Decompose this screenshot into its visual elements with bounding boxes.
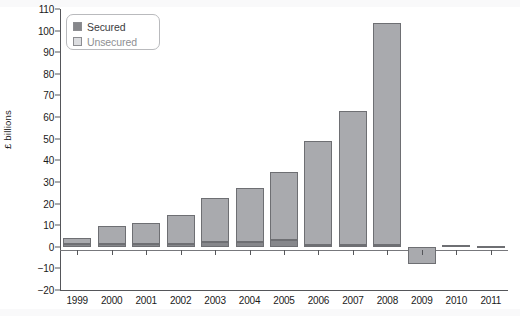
x-tick-label: 2001 [135,295,156,306]
y-tick-label: 80 [14,68,54,79]
bar-group [201,0,229,316]
x-tick-label: 2006 [308,295,329,306]
bar-segment-unsecured [442,245,470,247]
y-tick-label: 10 [14,220,54,231]
bar-group [442,0,470,316]
legend-swatch-secured [73,22,82,31]
bar-segment-secured [63,244,91,247]
x-tick-mark [387,250,388,255]
y-tick-label: 50 [14,133,54,144]
bar-segment-secured [373,245,401,247]
x-tick-mark [422,250,423,255]
y-tick-label: 0 [14,241,54,252]
y-tick-label: 20 [14,198,54,209]
x-tick-mark [284,250,285,255]
bar-segment-secured [167,244,195,247]
bar-segment-secured [339,245,367,247]
x-tick-mark [146,250,147,255]
x-tick-mark [112,250,113,255]
y-tick-label: 40 [14,155,54,166]
x-tick-label: 2000 [101,295,122,306]
x-tick-mark [181,250,182,255]
legend-label-unsecured: Unsecured [87,36,137,48]
x-tick-mark [491,250,492,255]
y-tick-label: −20 [14,285,54,296]
bar-group [408,0,436,316]
x-tick-mark [250,250,251,255]
x-tick-mark [318,250,319,255]
bar-segment-secured [270,240,298,246]
x-tick-mark [353,250,354,255]
y-tick-label: 30 [14,176,54,187]
x-tick-label: 2007 [342,295,363,306]
bar-segment-secured [132,244,160,247]
x-tick-label: 2003 [204,295,225,306]
bar-group [477,0,505,316]
x-tick-label: 2005 [273,295,294,306]
bar-segment-unsecured [270,172,298,240]
bar-segment-secured [98,244,126,247]
x-tick-mark [456,250,457,255]
bar-segment-unsecured [201,198,229,242]
bar-group [304,0,332,316]
bar-group [373,0,401,316]
x-tick-label: 2008 [377,295,398,306]
legend-item-secured: Secured [73,19,153,34]
y-tick-label: 90 [14,47,54,58]
y-tick-label: 100 [14,25,54,36]
y-tick-label: −10 [14,263,54,274]
x-tick-label: 2002 [170,295,191,306]
chart-figure: £ billions 1101009080706050403020100−10−… [0,0,520,316]
bar-segment-unsecured [236,188,264,242]
bar-group [339,0,367,316]
legend-item-unsecured: Unsecured [73,34,153,49]
bar-segment-secured [201,242,229,246]
bar-segment-unsecured [339,111,367,245]
legend-swatch-unsecured [73,37,82,46]
bar-segment-unsecured [132,223,160,244]
bar-segment-unsecured [63,238,91,243]
y-tick-label: 110 [14,4,54,15]
x-tick-mark [77,250,78,255]
bar-segment-unsecured [98,226,126,243]
bar-group [270,0,298,316]
x-tick-label: 2010 [446,295,467,306]
x-tick-label: 2009 [411,295,432,306]
bar-segment-unsecured [373,23,401,245]
y-axis-line [60,9,61,290]
y-tick-label: 70 [14,90,54,101]
bar-group [167,0,195,316]
bar-segment-unsecured [167,215,195,243]
x-tick-label: 2011 [480,295,501,306]
bar-segment-secured [304,245,332,247]
bar-segment-secured [236,242,264,246]
x-tick-label: 2004 [239,295,260,306]
bar-segment-unsecured [304,141,332,245]
x-tick-mark [215,250,216,255]
legend-label-secured: Secured [87,21,125,33]
y-tick-label: 60 [14,112,54,123]
x-tick-label: 1999 [66,295,87,306]
chart-legend: Secured Unsecured [66,14,160,50]
bar-group [236,0,264,316]
bar-segment-unsecured [477,246,505,248]
